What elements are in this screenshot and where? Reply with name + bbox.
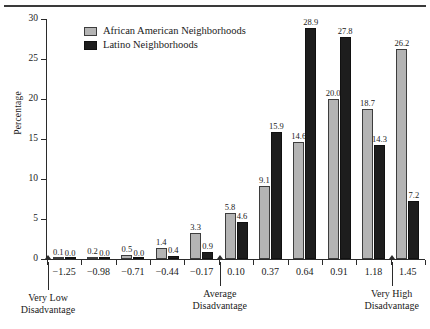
y-axis-tick-mark (41, 19, 46, 20)
annotation-label-line2: Disadvantage (160, 300, 280, 312)
x-axis-tick-label: 1.45 (388, 267, 428, 277)
annotation-arrow-icon (45, 255, 51, 259)
x-axis-tick-mark (184, 260, 185, 265)
bar-aa-0.64[interactable] (293, 142, 304, 259)
y-axis-tick-label: 15 (12, 134, 38, 144)
annotation-label: Very LowDisadvantage (0, 292, 108, 315)
bar-aa-0.37[interactable] (259, 186, 270, 259)
annotation-label: Very HighDisadvantage (332, 288, 430, 311)
bar-lat-0.64[interactable] (305, 28, 316, 259)
legend-item-latino[interactable]: Latino Neighborhoods (84, 39, 246, 52)
bar-lat-1.45[interactable] (408, 201, 419, 259)
bar-value-label: 0.0 (92, 249, 118, 258)
x-axis-tick-mark (425, 260, 426, 265)
annotation-arrow-icon (389, 255, 395, 259)
bar-value-label: 28.9 (298, 18, 324, 27)
y-axis-tick-label: 0 (12, 254, 38, 264)
legend-swatch-icon-african-american (84, 27, 97, 36)
y-axis-tick-mark (41, 259, 46, 260)
x-axis-tick-mark (150, 260, 151, 265)
bar-lat-0.91[interactable] (340, 37, 351, 259)
bar-lat--0.44[interactable] (168, 256, 179, 259)
bar-value-label: 14.3 (366, 135, 392, 144)
bar-aa-0.91[interactable] (328, 99, 339, 259)
bar-value-label: 7.2 (401, 191, 427, 200)
annotation-label-line1: Average (160, 288, 280, 300)
x-axis-tick-mark (253, 260, 254, 265)
figure-container: Percentage 051015202530 −1.25−0.98−0.71−… (0, 0, 430, 329)
y-axis-tick-mark (41, 59, 46, 60)
bar-value-label: 0.4 (160, 246, 186, 255)
bar-aa-1.18[interactable] (362, 109, 373, 259)
bar-lat-0.37[interactable] (271, 132, 282, 259)
annotation-label-line1: Very High (332, 288, 430, 300)
annotation-leader-line (392, 262, 393, 286)
y-axis-tick-mark (41, 99, 46, 100)
annotation-leader-line (220, 262, 221, 286)
x-axis-tick-mark (81, 260, 82, 265)
y-axis-tick-mark (41, 179, 46, 180)
annotation-arrow-icon (217, 255, 223, 259)
legend-label-latino: Latino Neighborhoods (103, 40, 198, 51)
y-axis-tick-label: 25 (12, 54, 38, 64)
page-divider-rule (4, 5, 426, 7)
annotation-leader-line (48, 262, 49, 290)
bar-value-label: 18.7 (354, 99, 380, 108)
x-axis-tick-mark (356, 260, 357, 265)
bar-lat-1.18[interactable] (374, 145, 385, 259)
bar-value-label: 4.6 (229, 212, 255, 221)
y-axis-tick-label: 30 (12, 14, 38, 24)
bar-value-label: 3.3 (183, 223, 209, 232)
y-axis-tick-label: 5 (12, 214, 38, 224)
plot-area: 0.10.20.51.43.35.89.114.620.018.726.20.0… (47, 19, 425, 259)
bar-value-label: 27.8 (332, 27, 358, 36)
annotation-label-line1: Very Low (0, 292, 108, 304)
bar-value-label: 15.9 (263, 122, 289, 131)
bar-value-label: 0.9 (195, 242, 221, 251)
legend-label-african-american: African American Neighborhoods (103, 26, 246, 37)
x-axis-tick-mark (288, 260, 289, 265)
bar-value-label: 0.0 (57, 249, 83, 258)
bar-aa-1.45[interactable] (396, 49, 407, 259)
x-axis-tick-mark (116, 260, 117, 265)
bar-value-label: 0.0 (126, 249, 152, 258)
annotation-label: AverageDisadvantage (160, 288, 280, 311)
y-axis-tick-label: 10 (12, 174, 38, 184)
bar-value-label: 5.8 (217, 203, 243, 212)
y-axis-tick-mark (41, 219, 46, 220)
bar-value-label: 26.2 (389, 39, 415, 48)
bar-lat-0.10[interactable] (237, 222, 248, 259)
bar-lat--0.17[interactable] (202, 252, 213, 259)
legend-swatch-icon-latino (84, 41, 97, 50)
legend-item-african-american[interactable]: African American Neighborhoods (84, 25, 246, 38)
y-axis-tick-label: 20 (12, 94, 38, 104)
y-axis-tick-mark (41, 139, 46, 140)
annotation-label-line2: Disadvantage (332, 300, 430, 312)
legend: African American Neighborhoods Latino Ne… (84, 25, 246, 53)
x-axis-line (46, 259, 425, 260)
x-axis-tick-mark (322, 260, 323, 265)
annotation-label-line2: Disadvantage (0, 304, 108, 316)
